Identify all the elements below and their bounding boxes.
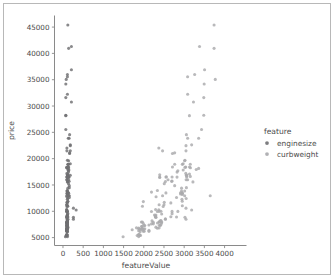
data-point-curbweight — [150, 210, 153, 213]
data-point-enginesize — [66, 187, 69, 190]
data-point-curbweight — [188, 114, 191, 117]
data-point-curbweight — [186, 137, 189, 140]
data-point-enginesize — [70, 100, 73, 103]
x-tick-label: 4000 — [215, 249, 234, 258]
data-point-curbweight — [171, 176, 174, 179]
y-tick-label: 5000 — [31, 233, 50, 242]
data-point-enginesize — [67, 163, 70, 166]
data-point-curbweight — [161, 194, 164, 197]
legend: feature enginesizecurbweight — [264, 127, 318, 159]
y-tick-label: 35000 — [27, 75, 50, 84]
data-point-curbweight — [198, 45, 201, 48]
y-tick-label: 10000 — [27, 207, 50, 216]
data-point-curbweight — [165, 175, 168, 178]
data-point-curbweight — [159, 223, 162, 226]
data-point-curbweight — [181, 204, 184, 207]
data-point-curbweight — [200, 128, 203, 131]
series-curbweight-points — [122, 23, 217, 238]
data-point-curbweight — [183, 159, 186, 162]
data-point-curbweight — [180, 198, 183, 201]
data-point-curbweight — [164, 180, 167, 183]
data-point-curbweight — [189, 175, 192, 178]
y-tick-label: 45000 — [27, 23, 50, 32]
data-point-curbweight — [184, 144, 187, 147]
data-point-curbweight — [181, 192, 184, 195]
y-axis-tick-labels: 5000100001500020000250003000035000400004… — [27, 23, 50, 243]
data-point-enginesize — [67, 168, 70, 171]
data-point-curbweight — [184, 149, 187, 152]
y-axis-title: price — [7, 121, 16, 140]
data-point-curbweight — [157, 146, 160, 149]
data-point-enginesize — [68, 133, 71, 136]
data-point-enginesize — [64, 96, 67, 99]
data-point-curbweight — [213, 23, 216, 26]
data-point-enginesize — [67, 192, 70, 195]
data-point-enginesize — [66, 73, 69, 76]
data-point-curbweight — [169, 201, 172, 204]
data-point-curbweight — [173, 151, 176, 154]
data-point-curbweight — [158, 203, 161, 206]
data-point-enginesize — [67, 175, 70, 178]
data-point-curbweight — [192, 100, 195, 103]
x-tick-label: 2000 — [135, 249, 154, 258]
data-point-curbweight — [169, 215, 172, 218]
legend-label-curbweight: curbweight — [277, 150, 318, 159]
data-point-enginesize — [66, 198, 69, 201]
x-axis-tick-labels: 05001000150020002500300035004000 — [61, 249, 234, 258]
data-point-curbweight — [214, 78, 217, 81]
data-point-curbweight — [209, 194, 212, 197]
data-point-curbweight — [203, 82, 206, 85]
data-point-curbweight — [161, 149, 164, 152]
legend-marker-enginesize — [265, 141, 269, 145]
data-point-curbweight — [147, 223, 150, 226]
data-point-enginesize — [66, 210, 69, 213]
data-point-enginesize — [66, 201, 69, 204]
x-tick-label: 1000 — [94, 249, 113, 258]
data-point-curbweight — [189, 163, 192, 166]
series-enginesize-points — [64, 23, 78, 238]
data-point-curbweight — [193, 73, 196, 76]
data-point-enginesize — [65, 233, 68, 236]
y-tick-label: 15000 — [27, 181, 50, 190]
data-point-enginesize — [75, 208, 78, 211]
data-point-enginesize — [67, 165, 70, 168]
data-point-curbweight — [152, 222, 155, 225]
data-point-curbweight — [185, 178, 188, 181]
data-point-curbweight — [202, 114, 205, 117]
data-point-curbweight — [160, 212, 163, 215]
data-point-curbweight — [176, 169, 179, 172]
data-point-curbweight — [213, 47, 216, 50]
data-point-enginesize — [64, 114, 67, 117]
data-point-curbweight — [150, 219, 153, 222]
data-point-curbweight — [191, 180, 194, 183]
data-point-enginesize — [67, 159, 70, 162]
data-point-curbweight — [203, 68, 206, 71]
data-point-curbweight — [142, 200, 145, 203]
data-point-enginesize — [66, 219, 69, 222]
data-point-curbweight — [197, 137, 200, 140]
data-point-curbweight — [197, 167, 200, 170]
data-point-curbweight — [159, 210, 162, 213]
data-point-enginesize — [64, 82, 67, 85]
data-point-enginesize — [65, 149, 68, 152]
data-point-curbweight — [137, 233, 140, 236]
x-tick-label: 500 — [76, 249, 90, 258]
x-axis-title: featureValue — [122, 261, 171, 270]
data-point-enginesize — [68, 137, 71, 140]
data-point-curbweight — [173, 163, 176, 166]
data-point-curbweight — [143, 227, 146, 230]
data-point-curbweight — [155, 195, 158, 198]
x-tick-label: 3000 — [175, 249, 194, 258]
data-point-curbweight — [171, 179, 174, 182]
data-point-curbweight — [164, 218, 167, 221]
data-point-curbweight — [162, 203, 165, 206]
data-point-curbweight — [185, 133, 188, 136]
y-tick-label: 25000 — [27, 128, 50, 137]
data-point-curbweight — [156, 189, 159, 192]
x-tick-label: 3500 — [195, 249, 214, 258]
data-point-enginesize — [72, 218, 75, 221]
legend-marker-curbweight — [265, 152, 269, 156]
data-point-curbweight — [122, 235, 125, 238]
data-point-curbweight — [175, 215, 178, 218]
data-point-curbweight — [202, 96, 205, 99]
